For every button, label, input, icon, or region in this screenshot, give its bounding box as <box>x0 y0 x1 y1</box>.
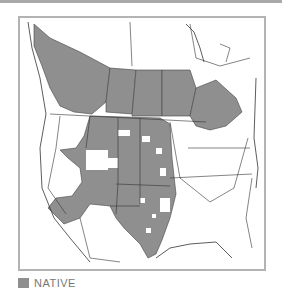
legend-label-native: NATIVE <box>34 277 76 289</box>
native-range <box>34 24 242 258</box>
distribution-map <box>18 16 266 271</box>
legend-swatch-native <box>18 278 29 288</box>
legend: NATIVE <box>18 276 76 290</box>
north-america-map <box>20 18 264 269</box>
top-divider <box>0 0 282 3</box>
